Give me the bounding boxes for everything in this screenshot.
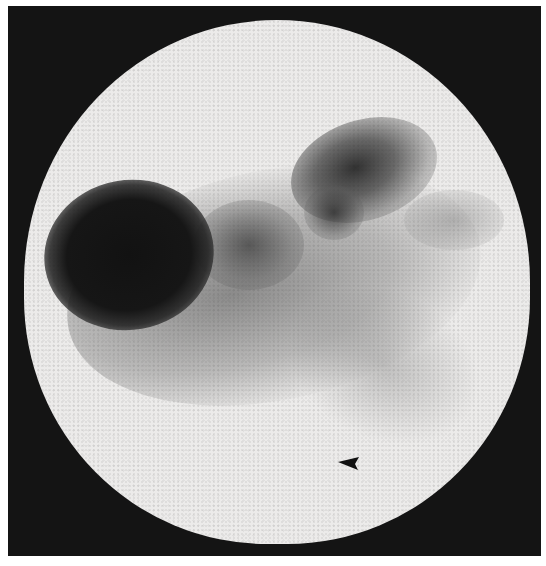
scan-frame bbox=[8, 6, 541, 556]
arrowhead-marker-icon bbox=[338, 457, 360, 471]
detector-field-of-view bbox=[24, 20, 530, 544]
right-faint-uptake bbox=[404, 190, 504, 250]
upper-uptake-tail bbox=[304, 185, 364, 240]
